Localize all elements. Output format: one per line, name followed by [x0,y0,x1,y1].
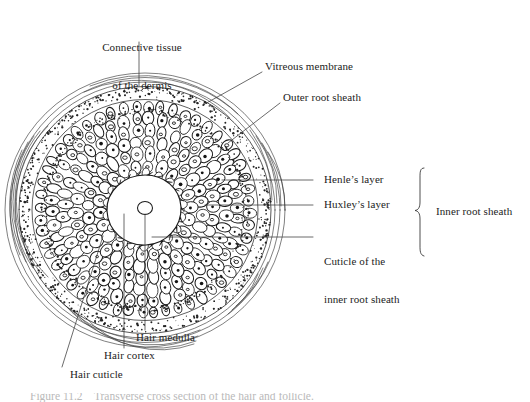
hair-medulla-region [138,202,153,215]
label-vitreous-membrane: Vitreous membrane [265,60,353,73]
figure-hair-follicle-cross-section: Connective tissue of the dermis Vitreous… [0,0,530,402]
figure-caption-clipped: Figure 11.2 Transverse cross section of … [30,393,500,402]
label-cuticle-irs-line2: inner root sheath [324,293,400,306]
leader-outer-root-sheath [228,103,280,143]
label-outer-root-sheath: Outer root sheath [283,91,361,104]
label-cuticle-irs-line1: Cuticle of the [324,255,400,268]
leader-vitreous-membrane [203,72,262,105]
label-connective-tissue-line1: Connective tissue [86,41,198,54]
label-inner-root-sheath: Inner root sheath [436,205,512,218]
figure-caption-text: Figure 11.2 Transverse cross section of … [30,393,314,402]
label-huxley-layer: Huxley’s layer [324,198,390,211]
label-hair-medulla: Hair medulla [136,331,195,344]
label-hair-cortex: Hair cortex [104,349,155,362]
label-connective-tissue-line2: of the dermis [86,79,198,92]
inner-root-sheath-brace [415,168,424,256]
label-cuticle-inner-root-sheath: Cuticle of the inner root sheath [324,230,400,330]
label-hair-cuticle: Hair cuticle [70,368,123,381]
label-henle-layer: Henle’s layer [324,173,384,186]
curly-brace-right-icon [415,168,424,256]
label-connective-tissue: Connective tissue of the dermis [86,16,198,116]
